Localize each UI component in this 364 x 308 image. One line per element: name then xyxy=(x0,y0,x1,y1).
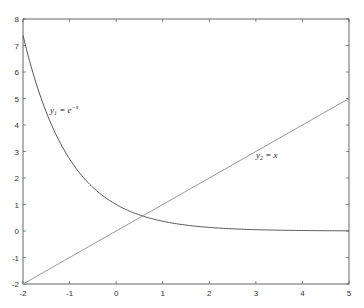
x-tick-label: 5 xyxy=(347,289,352,298)
y-tick-label: 0 xyxy=(15,227,20,236)
y-tick-label: 5 xyxy=(15,95,20,104)
series-y1-exp xyxy=(23,35,349,231)
annotation-y1: y1 = e−x xyxy=(49,104,79,116)
x-tick-label: 0 xyxy=(114,289,119,298)
y-tick-label: 2 xyxy=(15,174,20,183)
plot-frame xyxy=(23,19,349,284)
x-tick-label: -2 xyxy=(19,289,27,298)
y-tick-label: 4 xyxy=(15,121,20,130)
series-layer xyxy=(23,35,349,284)
x-tick-label: 4 xyxy=(300,289,305,298)
y-tick-label: 7 xyxy=(15,42,20,51)
line-chart: -2-1012345-2-1012345678 y1 = e−x y2 = x xyxy=(0,0,364,308)
y-tick-label: 6 xyxy=(15,68,20,77)
x-tick-label: 2 xyxy=(207,289,212,298)
series-y2-linear xyxy=(23,99,349,285)
y-tick-label: 8 xyxy=(15,15,20,24)
y-tick-label: 3 xyxy=(15,148,20,157)
axes: -2-1012345-2-1012345678 xyxy=(12,15,352,298)
y-tick-label: -1 xyxy=(12,254,20,263)
x-tick-label: 1 xyxy=(160,289,165,298)
annotation-y2: y2 = x xyxy=(255,150,278,161)
x-tick-label: -1 xyxy=(66,289,74,298)
x-tick-label: 3 xyxy=(254,289,259,298)
y-tick-label: 1 xyxy=(15,201,20,210)
y-tick-label: -2 xyxy=(12,280,20,289)
annotations: y1 = e−x y2 = x xyxy=(49,104,278,161)
